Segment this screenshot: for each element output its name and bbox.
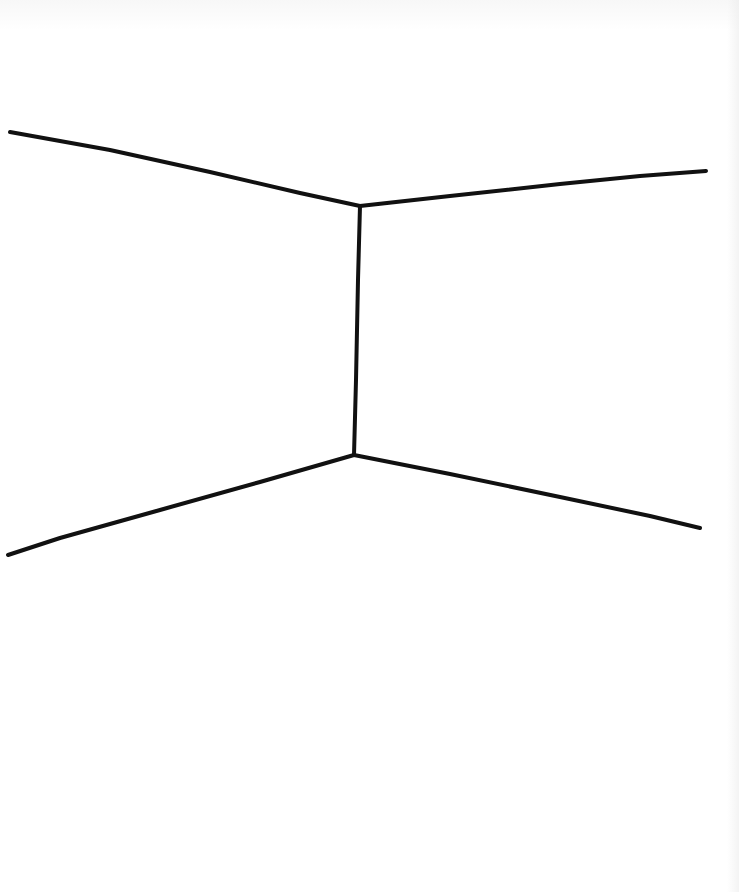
top-shading xyxy=(0,0,739,30)
right-edge-shading xyxy=(727,0,739,892)
floor-left-edge xyxy=(8,455,354,555)
wall-corner-vertical xyxy=(354,206,360,455)
room-corner-drawing xyxy=(0,0,739,892)
floor-right-edge xyxy=(354,455,700,528)
ceiling-left-edge xyxy=(10,132,360,206)
drawing-lines xyxy=(8,132,706,555)
drawing-canvas xyxy=(0,0,739,892)
ceiling-right-edge xyxy=(360,171,706,206)
